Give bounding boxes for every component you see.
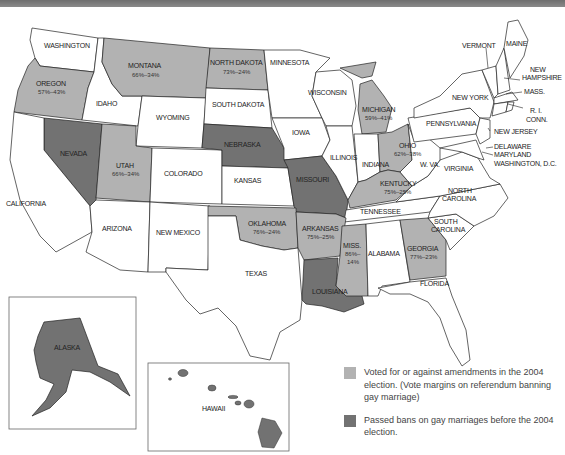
label-arizona: ARIZONA bbox=[102, 225, 132, 232]
label-colorado: COLORADO bbox=[164, 170, 203, 177]
label-louisiana: LOUISIANA bbox=[312, 288, 348, 295]
label-north-carolina-2: CAROLINA bbox=[442, 195, 477, 202]
label-nevada: NEVADA bbox=[60, 150, 88, 157]
legend-item-voted-2004: Voted for or against amendments in the 2… bbox=[344, 366, 559, 404]
label-illinois: ILLINOIS bbox=[330, 154, 358, 161]
margin-ohio: 62%–38% bbox=[394, 151, 422, 157]
label-delaware: DELAWARE bbox=[494, 143, 532, 150]
label-west-virginia: W. VA. bbox=[420, 161, 440, 168]
label-montana: MONTANA bbox=[128, 62, 162, 69]
label-maryland: MARYLAND bbox=[494, 151, 531, 158]
label-new-york: NEW YORK bbox=[452, 94, 489, 101]
label-rhode-island: R. I. bbox=[530, 107, 542, 114]
label-arkansas: ARKANSAS bbox=[302, 225, 339, 232]
margin-michigan: 59%–41% bbox=[365, 115, 393, 121]
legend-label-voted-2004: Voted for or against amendments in the 2… bbox=[364, 366, 559, 404]
margin-georgia: 77%–23% bbox=[410, 254, 438, 260]
margin-oklahoma: 76%–24% bbox=[253, 229, 281, 235]
label-south-dakota: SOUTH DAKOTA bbox=[212, 101, 265, 108]
label-florida: FLORIDA bbox=[420, 280, 449, 287]
label-oklahoma: OKLAHOMA bbox=[248, 220, 287, 227]
margin-montana: 66%–34% bbox=[132, 72, 160, 78]
label-north-dakota: NORTH DAKOTA bbox=[210, 59, 263, 66]
state-florida bbox=[378, 278, 470, 366]
margin-mississippi-1: 86%– bbox=[345, 251, 361, 257]
label-ohio: OHIO bbox=[399, 142, 417, 149]
label-california: CALIFORNIA bbox=[6, 200, 47, 207]
legend-swatch-dark bbox=[344, 415, 356, 427]
label-michigan: MICHIGAN bbox=[362, 106, 396, 113]
label-minnesota: MINNESOTA bbox=[270, 59, 310, 66]
state-maine bbox=[504, 20, 528, 78]
state-connecticut bbox=[492, 102, 508, 116]
margin-utah: 66%–34% bbox=[112, 171, 140, 177]
margin-mississippi-2: 14% bbox=[347, 259, 360, 265]
label-idaho: IDAHO bbox=[96, 100, 118, 107]
margin-kentucky: 75%–25% bbox=[384, 189, 412, 195]
label-alaska: ALASKA bbox=[54, 344, 81, 351]
label-kansas: KANSAS bbox=[234, 177, 262, 184]
label-tennessee: TENNESSEE bbox=[360, 208, 401, 215]
label-pennsylvania: PENNSYLVANIA bbox=[426, 120, 477, 127]
label-hawaii: HAWAII bbox=[202, 405, 225, 412]
label-south-carolina-2: CAROLINA bbox=[431, 226, 466, 233]
label-connecticut: CONN. bbox=[526, 116, 548, 123]
state-kansas bbox=[222, 166, 294, 206]
label-indiana: INDIANA bbox=[362, 161, 390, 168]
state-washington bbox=[30, 28, 98, 72]
legend: Voted for or against amendments in the 2… bbox=[344, 366, 559, 449]
label-georgia: GEORGIA bbox=[407, 245, 439, 252]
label-new-mexico: NEW MEXICO bbox=[156, 229, 201, 236]
label-new-jersey: NEW JERSEY bbox=[494, 128, 538, 135]
state-arizona bbox=[86, 200, 150, 272]
margin-north-dakota: 73%–24% bbox=[223, 69, 251, 75]
state-wyoming bbox=[136, 96, 206, 148]
label-mississippi: MISS. bbox=[343, 242, 361, 249]
label-kentucky: KENTUCKY bbox=[380, 180, 417, 187]
label-new-hampshire-1: NEW bbox=[530, 66, 546, 73]
state-south-dakota bbox=[204, 88, 272, 128]
label-wyoming: WYOMING bbox=[156, 114, 190, 121]
label-dc: WASHINGTON, D.C. bbox=[494, 160, 557, 167]
legend-label-passed-before: Passed bans on gay marriages before the … bbox=[364, 414, 559, 439]
label-north-carolina-1: NORTH bbox=[448, 187, 472, 194]
label-vermont: VERMONT bbox=[462, 42, 497, 49]
label-south-carolina-1: SOUTH bbox=[434, 218, 458, 225]
state-new-mexico bbox=[148, 202, 210, 272]
margin-arkansas: 75%–25% bbox=[307, 234, 335, 240]
label-missouri: MISSOURI bbox=[296, 176, 329, 183]
legend-swatch-light bbox=[344, 367, 356, 379]
label-iowa: IOWA bbox=[292, 129, 310, 136]
label-wisconsin: WISCONSIN bbox=[308, 89, 347, 96]
label-utah: UTAH bbox=[116, 162, 134, 169]
label-nebraska: NEBRASKA bbox=[224, 141, 261, 148]
label-massachusetts: MASS. bbox=[524, 88, 545, 95]
label-oregon: OREGON bbox=[36, 80, 66, 87]
label-new-hampshire-2: HAMPSHIRE bbox=[522, 74, 562, 81]
label-alabama: ALABAMA bbox=[368, 250, 400, 257]
legend-item-passed-before: Passed bans on gay marriages before the … bbox=[344, 414, 559, 439]
label-maine: MAINE bbox=[506, 40, 528, 47]
label-virginia: VIRGINIA bbox=[444, 165, 474, 172]
label-washington: WASHINGTON bbox=[44, 42, 90, 49]
label-texas: TEXAS bbox=[245, 270, 267, 277]
margin-oregon: 57%–43% bbox=[38, 89, 66, 95]
